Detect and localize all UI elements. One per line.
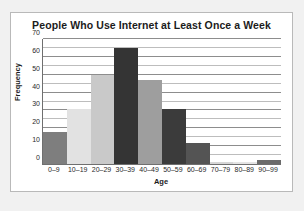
y-axis-tick-label: 60 bbox=[32, 46, 40, 53]
y-axis-tick-label: 20 bbox=[32, 118, 40, 125]
x-axis-tick-label: 10–19 bbox=[66, 166, 90, 174]
bar-slot bbox=[162, 39, 186, 164]
y-axis-tick-label: 30 bbox=[32, 100, 40, 107]
bar-slot bbox=[114, 39, 138, 164]
bar[interactable] bbox=[91, 75, 115, 164]
y-axis-tick-label: 40 bbox=[32, 82, 40, 89]
bar-series bbox=[43, 39, 281, 164]
x-axis-tick-label: 60–69 bbox=[185, 166, 209, 174]
bar[interactable] bbox=[162, 109, 186, 164]
y-axis-tick-label: 10 bbox=[32, 136, 40, 143]
y-axis-tick-label: 50 bbox=[32, 64, 40, 71]
plot-area: 010203040506070 bbox=[42, 39, 281, 165]
bar[interactable] bbox=[257, 160, 281, 164]
x-axis-tick-label: 90–99 bbox=[256, 166, 280, 174]
y-axis-tick-label: 70 bbox=[32, 29, 40, 36]
x-axis-tick-label: 0–9 bbox=[42, 166, 66, 174]
x-axis-tick-label: 70–79 bbox=[209, 166, 233, 174]
bar-slot bbox=[138, 39, 162, 164]
bar[interactable] bbox=[138, 80, 162, 164]
chart-title: People Who Use Internet at Least Once a … bbox=[11, 19, 292, 31]
bar-slot bbox=[210, 39, 234, 164]
y-axis-title: Frequency bbox=[13, 63, 22, 101]
x-axis-tick-labels: 0–910–1920–2930–3940–4950–5960–6970–7980… bbox=[42, 166, 280, 174]
bar[interactable] bbox=[43, 132, 67, 164]
bar-slot bbox=[91, 39, 115, 164]
bar[interactable] bbox=[233, 162, 257, 164]
x-axis-title: Age bbox=[42, 177, 280, 186]
bar-slot bbox=[43, 39, 67, 164]
y-axis-tick-label: 0 bbox=[36, 154, 40, 161]
bar[interactable] bbox=[67, 109, 91, 164]
x-axis-tick-label: 20–29 bbox=[90, 166, 114, 174]
chart-card: People Who Use Internet at Least Once a … bbox=[10, 12, 293, 192]
x-axis-tick-label: 30–39 bbox=[113, 166, 137, 174]
x-axis-tick-label: 80–89 bbox=[232, 166, 256, 174]
bar[interactable] bbox=[210, 162, 234, 164]
bar[interactable] bbox=[114, 48, 138, 164]
bar-slot bbox=[233, 39, 257, 164]
bar-slot bbox=[257, 39, 281, 164]
bar-slot bbox=[186, 39, 210, 164]
x-axis-tick-label: 50–59 bbox=[161, 166, 185, 174]
x-axis-tick-label: 40–49 bbox=[137, 166, 161, 174]
bar-slot bbox=[67, 39, 91, 164]
bar[interactable] bbox=[186, 143, 210, 164]
